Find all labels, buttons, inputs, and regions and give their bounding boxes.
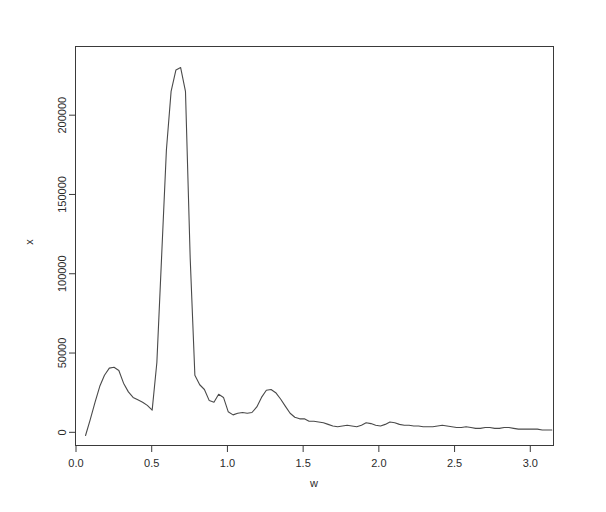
spectrum-chart: 0.00.51.01.52.02.53.0 050000100000150000…: [0, 0, 606, 512]
y-tick-label: 200000: [56, 97, 68, 134]
y-tick-label: 100000: [56, 255, 68, 292]
x-axis-title: w: [309, 477, 318, 489]
y-tick-label: 150000: [56, 176, 68, 213]
chart-background: [0, 0, 606, 512]
x-tick-label: 2.5: [447, 457, 462, 469]
x-tick-label: 1.0: [220, 457, 235, 469]
x-tick-label: 2.0: [371, 457, 386, 469]
x-tick-label: 0.5: [144, 457, 159, 469]
y-axis-title: x: [23, 239, 35, 245]
plot-canvas: 0.00.51.01.52.02.53.0 050000100000150000…: [0, 0, 606, 512]
x-tick-label: 0.0: [68, 457, 83, 469]
x-tick-label: 1.5: [295, 457, 310, 469]
y-tick-label: 0: [56, 429, 68, 435]
x-tick-label: 3.0: [523, 457, 538, 469]
y-tick-label: 50000: [56, 338, 68, 369]
